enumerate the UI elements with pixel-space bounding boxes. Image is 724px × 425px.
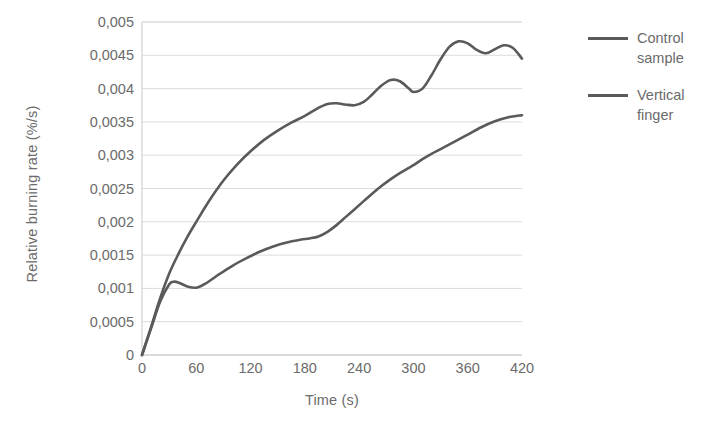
y-tick-label: 0,001 — [10, 280, 134, 296]
legend-label-line-2: finger — [637, 105, 721, 125]
legend-item-label: Controlsample — [637, 28, 721, 68]
y-tick-label: 0,0035 — [10, 114, 134, 130]
legend-label-line-1: Vertical — [637, 85, 721, 105]
y-tick-label: 0,0015 — [10, 247, 134, 263]
x-tick-label: 180 — [293, 360, 317, 376]
chart-figure: Relative burning rate (%/s) 00,00050,001… — [0, 0, 724, 425]
y-tick-label: 0,0025 — [10, 181, 134, 197]
legend-swatch-line-icon — [588, 37, 628, 40]
legend-label-line-1: Control — [637, 28, 721, 48]
x-tick-label: 420 — [510, 360, 534, 376]
legend-item-label: Verticalfinger — [637, 85, 721, 125]
y-axis-tick-labels: 00,00050,0010,00150,0020,00250,0030,0035… — [0, 0, 134, 425]
y-tick-label: 0,002 — [10, 214, 134, 230]
x-tick-label: 300 — [401, 360, 425, 376]
y-tick-label: 0,004 — [10, 81, 134, 97]
legend-item[interactable]: Controlsample — [588, 28, 724, 68]
y-tick-label: 0,0005 — [10, 314, 134, 330]
chart-legend: ControlsampleVerticalfinger — [588, 28, 724, 142]
series-line-2 — [142, 115, 522, 355]
y-tick-label: 0,005 — [10, 14, 134, 30]
y-tick-label: 0 — [10, 347, 134, 363]
legend-item[interactable]: Verticalfinger — [588, 85, 724, 125]
legend-swatch-line-icon — [588, 94, 628, 97]
x-tick-label: 0 — [138, 360, 146, 376]
y-tick-label: 0,0045 — [10, 47, 134, 63]
legend-label-line-2: sample — [637, 48, 721, 68]
y-tick-label: 0,003 — [10, 147, 134, 163]
x-tick-label: 120 — [238, 360, 262, 376]
x-axis-title: Time (s) — [142, 392, 522, 408]
x-tick-label: 60 — [188, 360, 204, 376]
gridlines — [142, 22, 522, 355]
x-tick-label: 360 — [456, 360, 480, 376]
x-tick-label: 240 — [347, 360, 371, 376]
